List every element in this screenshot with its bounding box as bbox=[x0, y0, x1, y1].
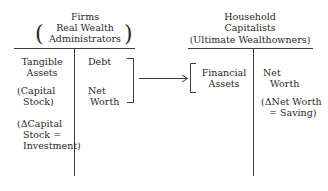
connector-layer bbox=[0, 0, 328, 191]
households-assets-bracket bbox=[191, 64, 197, 93]
firms-liabilities-bracket bbox=[127, 59, 134, 103]
